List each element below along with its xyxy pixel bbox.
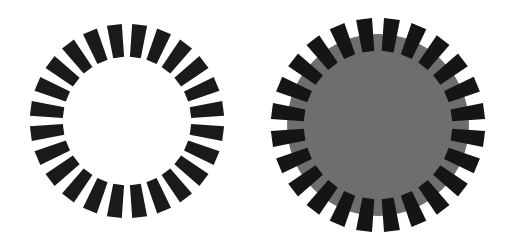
dashed-ring-left [30, 24, 224, 218]
dash-segment [107, 24, 124, 58]
dash-segment [130, 24, 147, 58]
dashed-ring-with-disc-right [271, 18, 485, 232]
dash-segment [130, 184, 147, 218]
dash-segment [30, 124, 64, 141]
dash-segment [30, 101, 64, 118]
dash-segment [190, 101, 224, 118]
gray-disc [287, 34, 469, 216]
figure-canvas [0, 0, 513, 251]
dash-segment [107, 184, 124, 218]
dash-segment [190, 124, 224, 141]
